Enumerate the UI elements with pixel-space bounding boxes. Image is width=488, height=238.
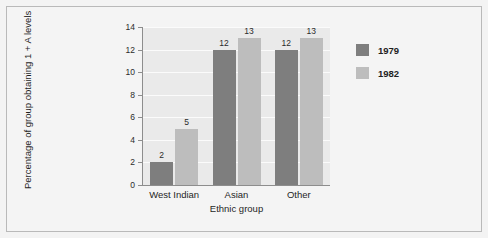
bar-value-label: 5 <box>184 117 189 127</box>
y-axis-tick-mark <box>138 95 142 96</box>
y-axis-tick-labels: 02468101214 <box>118 27 135 185</box>
y-axis-tick-label: 0 <box>130 180 135 190</box>
legend-swatch-icon <box>356 44 369 56</box>
bar-1982-other <box>300 38 323 185</box>
y-axis-tick-mark <box>138 27 142 28</box>
x-axis-line <box>142 185 330 186</box>
chart-figure: Percentage of group obtaining 1 + A leve… <box>0 0 488 238</box>
bar-value-label: 12 <box>282 38 291 48</box>
gridline <box>143 27 330 28</box>
bar-1979-west-indian <box>150 162 173 185</box>
x-axis-title: Ethnic group <box>143 203 330 214</box>
legend-item-1979: 1979 <box>356 44 436 56</box>
bar-value-label: 13 <box>244 26 253 36</box>
y-axis-tick-mark <box>138 50 142 51</box>
y-axis-tick-mark <box>138 140 142 141</box>
bar-1982-west-indian <box>175 129 198 185</box>
bar-1979-other <box>275 50 298 185</box>
y-axis-tick-label: 2 <box>130 157 135 167</box>
y-axis-tick-label: 6 <box>130 112 135 122</box>
y-axis-tick-mark <box>138 72 142 73</box>
y-axis-tick-label: 12 <box>126 45 135 55</box>
bar-1982-asian <box>238 38 261 185</box>
y-axis-tick-mark <box>138 185 142 186</box>
bar-1979-asian <box>213 50 236 185</box>
y-axis-tick-label: 4 <box>130 135 135 145</box>
y-axis-tick-label: 10 <box>126 67 135 77</box>
bar-value-label: 13 <box>307 26 316 36</box>
x-axis-category-label: Asian <box>225 189 249 200</box>
legend-label: 1979 <box>378 45 399 56</box>
legend-swatch-icon <box>356 67 369 79</box>
bar-value-label: 2 <box>159 150 164 160</box>
y-axis-tick-label: 14 <box>126 22 135 32</box>
bar-value-label: 12 <box>219 38 228 48</box>
y-axis-tick-mark <box>138 162 142 163</box>
x-axis-category-label: Other <box>287 189 311 200</box>
x-axis-category-label: West Indian <box>149 189 199 200</box>
y-axis-tick-label: 8 <box>130 90 135 100</box>
y-axis-tick-mark <box>138 117 142 118</box>
chart-legend: 19791982 <box>356 44 436 90</box>
legend-label: 1982 <box>378 68 399 79</box>
y-axis-title: Percentage of group obtaining 1 + A leve… <box>22 14 33 189</box>
plot-area: 2512131213 <box>143 27 330 185</box>
legend-item-1982: 1982 <box>356 67 436 79</box>
